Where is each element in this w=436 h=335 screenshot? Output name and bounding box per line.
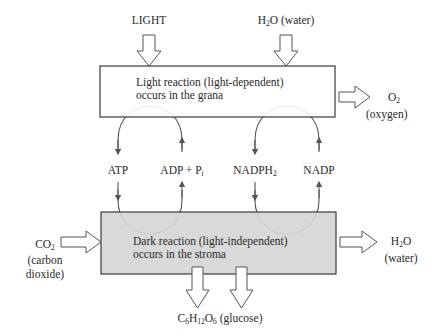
co2-name-line2: dioxide)	[26, 268, 64, 281]
atp-label: ATP	[108, 164, 128, 176]
light-input-label: LIGHT	[132, 14, 167, 26]
co2-formula: CO2	[35, 238, 55, 252]
oxygen-name: (oxygen)	[366, 108, 408, 121]
dark-reaction-title: Dark reaction (light-independent)	[133, 235, 288, 248]
water-arrow-icon	[274, 35, 298, 66]
dark-reaction-location: occurs in the stroma	[133, 248, 226, 260]
co2-name-line1: (carbon	[27, 254, 62, 267]
adp-label: ADP + Pi	[160, 164, 203, 178]
light-arrow-icon	[137, 35, 161, 66]
water-output-formula: H2O	[391, 235, 411, 249]
light-reaction-title: Light reaction (light-dependent)	[136, 76, 284, 89]
water-input-label: H2O (water)	[258, 14, 315, 28]
nadp-label: NADP	[303, 164, 334, 176]
water-output-arrow-icon	[340, 231, 377, 253]
oxygen-arrow-icon	[339, 86, 370, 108]
water-output-name: (water)	[384, 252, 417, 265]
co2-arrow-icon	[61, 231, 101, 253]
photosynthesis-diagram: LIGHT H2O (water) Light reaction (light-…	[0, 0, 436, 335]
nadph-label: NADPH2	[233, 164, 277, 178]
glucose-label: C6H12O6 (glucose)	[178, 312, 263, 326]
oxygen-formula: O2	[388, 91, 400, 105]
light-reaction-location: occurs in the grana	[136, 89, 223, 102]
